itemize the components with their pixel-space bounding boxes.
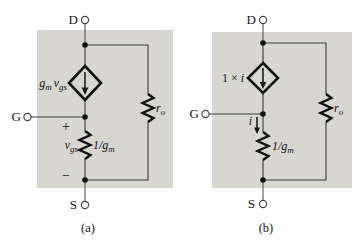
caption-b: (b) (259, 221, 274, 235)
terminal-d-label-b: D (247, 12, 256, 27)
terminal-d-a (81, 16, 88, 23)
source-label-b: 1 ×i (222, 71, 244, 85)
circuit-figure: D G S (a) gmvgs + − vgs 1/gm ro (0, 0, 363, 246)
circuit-b-panel (212, 32, 352, 188)
connection-node (260, 111, 266, 117)
terminal-s-b (259, 200, 266, 207)
polarity-minus-a: − (62, 168, 70, 183)
terminal-s-a (81, 201, 88, 208)
caption-a: (a) (81, 221, 95, 235)
connection-node (82, 42, 88, 48)
connection-node (82, 177, 88, 183)
terminal-g-a (24, 113, 31, 120)
connection-node (260, 177, 266, 183)
terminal-d-b (259, 16, 266, 23)
terminal-s-label-b: S (248, 196, 255, 211)
circuit-canvas: D G S (a) gmvgs + − vgs 1/gm ro (0, 0, 363, 246)
circuit-a: D G S (a) gmvgs + − vgs 1/gm ro (12, 12, 173, 235)
terminal-g-label-b: G (190, 106, 199, 121)
connection-node (260, 40, 266, 46)
branch-current-label-b: i (249, 114, 252, 128)
terminal-s-label-a: S (70, 197, 77, 212)
circuit-b: D G S (b) 1 ×i i 1/gm ro (190, 12, 352, 235)
connection-node (82, 114, 88, 120)
terminal-d-label-a: D (69, 12, 78, 27)
terminal-g-label-a: G (12, 109, 21, 124)
terminal-g-b (202, 110, 209, 117)
polarity-plus-a: + (62, 119, 70, 134)
